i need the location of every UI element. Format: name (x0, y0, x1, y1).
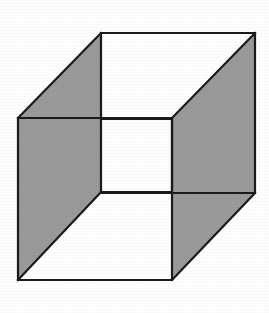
cube-figure (0, 0, 269, 313)
figure-stage: Necker cube (0, 0, 269, 313)
inner-square-face (101, 119, 172, 192)
